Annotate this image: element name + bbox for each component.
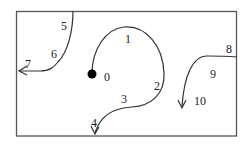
label-9: 9 xyxy=(210,67,216,81)
label-2: 2 xyxy=(154,79,160,93)
label-10: 10 xyxy=(194,94,206,108)
label-4: 4 xyxy=(91,116,97,130)
label-6: 6 xyxy=(51,47,57,61)
label-3: 3 xyxy=(121,92,127,106)
label-7: 7 xyxy=(25,57,31,71)
label-5: 5 xyxy=(61,19,67,33)
start-dot xyxy=(88,70,97,79)
label-8: 8 xyxy=(226,42,232,56)
label-1: 1 xyxy=(125,32,131,46)
trajectory-diagram: 0 1 2 3 4 5 6 7 8 9 10 xyxy=(0,0,250,145)
right-curve-path xyxy=(182,56,237,107)
diagram-frame xyxy=(17,12,237,137)
label-0: 0 xyxy=(104,70,110,84)
